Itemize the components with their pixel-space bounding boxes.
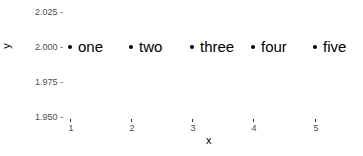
y-tick-2.025: 2.025 -	[35, 7, 63, 17]
y-tick-1.950: 1.950 -	[35, 112, 63, 122]
dot-icon	[68, 45, 72, 49]
y-axis-label: y	[0, 43, 12, 49]
point-two: two	[129, 38, 162, 56]
x-tick-mark	[253, 119, 254, 122]
x-tick-4: 4	[244, 123, 264, 133]
dot-icon	[251, 45, 255, 49]
x-tick-3: 3	[183, 123, 203, 133]
x-tick-1: 1	[61, 123, 81, 133]
x-tick-2: 2	[122, 123, 142, 133]
x-tick-mark	[70, 119, 71, 122]
y-tick-2.000: 2.000 -	[35, 42, 63, 52]
x-tick-5: 5	[306, 123, 326, 133]
point-five: five	[313, 38, 346, 56]
point-four: four	[251, 38, 287, 56]
point-three: three	[190, 38, 234, 56]
x-axis-label: x	[206, 134, 212, 146]
x-tick-mark	[315, 119, 316, 122]
dot-icon	[190, 45, 194, 49]
point-one: one	[68, 38, 103, 56]
dot-icon	[129, 45, 133, 49]
dot-icon	[313, 45, 317, 49]
y-tick-1.975: 1.975 -	[35, 77, 63, 87]
x-tick-mark	[192, 119, 193, 122]
x-tick-mark	[131, 119, 132, 122]
